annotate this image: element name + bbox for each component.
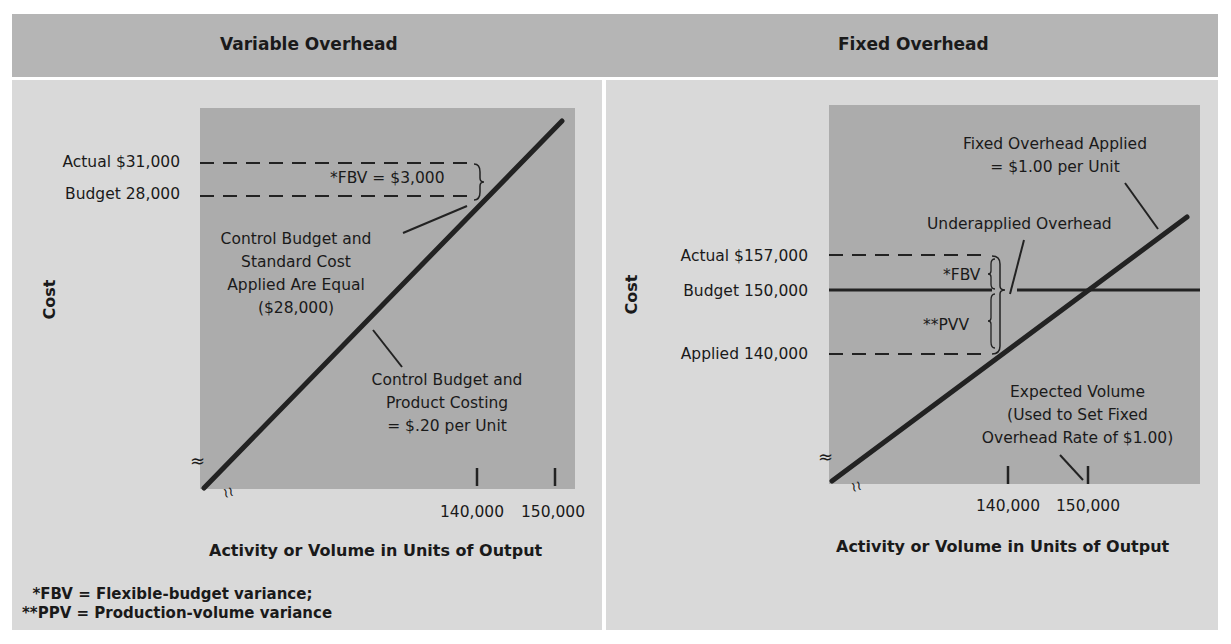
annotation-expected-line: Overhead Rate of $1.00) (955, 427, 1200, 450)
y-axis-break-icon: ≈ (818, 446, 833, 467)
annotation-applied-line: Fixed Overhead Applied (935, 133, 1175, 156)
annotation-expected-line: Expected Volume (955, 381, 1200, 404)
annotation-applied-line: = $1.00 per Unit (935, 156, 1175, 179)
annotation-applied: Fixed Overhead Applied = $1.00 per Unit (935, 133, 1175, 179)
annotation-underapplied: Underapplied Overhead (927, 215, 1112, 233)
fixed-x-tick-150000: 150,000 (1056, 497, 1120, 515)
fixed-pvv-label: **PVV (923, 316, 969, 334)
fixed-x-tick-140000: 140,000 (976, 497, 1040, 515)
fixed-fbv-label: *FBV (943, 266, 980, 284)
fixed-x-axis-label: Activity or Volume in Units of Output (836, 537, 1169, 556)
annotation-expected-volume: Expected Volume (Used to Set Fixed Overh… (955, 381, 1200, 450)
annotation-expected-line: (Used to Set Fixed (955, 404, 1200, 427)
